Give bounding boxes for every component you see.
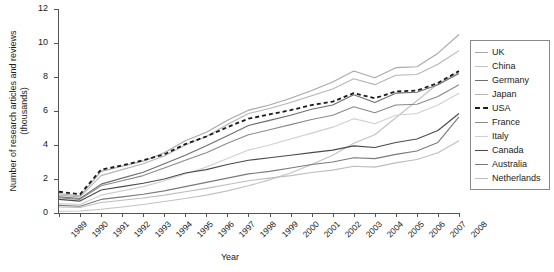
x-tick-label: 1991 <box>111 219 131 239</box>
series-line-canada <box>59 114 459 202</box>
series-line-australia <box>59 117 459 206</box>
legend-item-netherlands[interactable]: Netherlands <box>475 171 546 185</box>
x-tick-label: 2003 <box>363 219 383 239</box>
x-axis-title: Year <box>0 252 460 262</box>
y-tick-label: 2 <box>18 173 48 183</box>
legend-swatch-icon <box>475 107 488 109</box>
legend-swatch-icon <box>475 52 488 53</box>
series-lines <box>59 9 459 213</box>
series-line-italy <box>59 93 459 204</box>
x-tick-label: 2001 <box>321 219 341 239</box>
x-tick <box>59 213 60 217</box>
x-tick-label: 1995 <box>195 219 215 239</box>
x-tick <box>80 213 81 217</box>
legend-label: Italy <box>492 132 509 141</box>
x-tick-label: 2007 <box>447 219 467 239</box>
x-tick <box>417 213 418 217</box>
legend-label: China <box>492 62 516 71</box>
x-tick-label: 2004 <box>384 219 404 239</box>
x-tick <box>270 213 271 217</box>
x-tick <box>227 213 228 217</box>
x-tick-label: 2005 <box>405 219 425 239</box>
y-tick-label: 8 <box>18 71 48 81</box>
legend-swatch-icon <box>475 66 488 67</box>
legend-label: Canada <box>492 146 524 155</box>
legend-label: UK <box>492 48 505 57</box>
x-tick <box>396 213 397 217</box>
legend-item-uk[interactable]: UK <box>475 45 546 59</box>
x-tick-label: 1990 <box>90 219 110 239</box>
legend-label: France <box>492 118 520 127</box>
legend-item-germany[interactable]: Germany <box>475 73 546 87</box>
x-tick <box>438 213 439 217</box>
legend-label: USA <box>492 104 511 113</box>
legend-item-australia[interactable]: Australia <box>475 157 546 171</box>
x-tick-label: 1997 <box>237 219 257 239</box>
legend-swatch-icon <box>475 150 488 151</box>
y-tick-label: 4 <box>18 139 48 149</box>
x-tick-label: 1999 <box>279 219 299 239</box>
x-tick <box>375 213 376 217</box>
legend-label: Japan <box>492 90 517 99</box>
y-tick-label: 10 <box>18 37 48 47</box>
legend-item-canada[interactable]: Canada <box>475 143 546 157</box>
x-tick-label: 2006 <box>426 219 446 239</box>
legend-swatch-icon <box>475 80 488 81</box>
legend-item-italy[interactable]: Italy <box>475 129 546 143</box>
legend-swatch-icon <box>475 94 488 95</box>
x-tick-label: 2002 <box>342 219 362 239</box>
y-tick-label: 6 <box>18 105 48 115</box>
x-tick <box>333 213 334 217</box>
x-tick-label: 1996 <box>216 219 236 239</box>
y-tick-label: 12 <box>18 3 48 13</box>
x-tick <box>312 213 313 217</box>
legend-item-china[interactable]: China <box>475 59 546 73</box>
x-tick <box>185 213 186 217</box>
y-tick-label: 0 <box>18 207 48 217</box>
legend-swatch-icon <box>475 122 488 123</box>
x-tick <box>122 213 123 217</box>
chart-legend: UKChinaGermanyJapanUSAFranceItalyCanadaA… <box>470 40 550 190</box>
x-tick-label: 2000 <box>300 219 320 239</box>
legend-item-france[interactable]: France <box>475 115 546 129</box>
x-tick-label: 1989 <box>69 219 89 239</box>
legend-swatch-icon <box>475 178 488 179</box>
plot-area <box>59 9 459 213</box>
x-axis-line <box>58 213 460 214</box>
x-tick <box>291 213 292 217</box>
x-tick <box>101 213 102 217</box>
x-tick <box>143 213 144 217</box>
legend-swatch-icon <box>475 136 488 137</box>
x-tick-label: 1992 <box>132 219 152 239</box>
x-tick <box>459 213 460 217</box>
legend-label: Germany <box>492 76 529 85</box>
x-tick-label: 1993 <box>153 219 173 239</box>
legend-swatch-icon <box>475 164 488 165</box>
x-tick <box>354 213 355 217</box>
legend-item-japan[interactable]: Japan <box>475 87 546 101</box>
legend-label: Netherlands <box>492 174 541 183</box>
x-tick <box>206 213 207 217</box>
series-line-japan <box>59 51 459 197</box>
x-tick-label: 2008 <box>469 219 489 239</box>
legend-label: Australia <box>492 160 527 169</box>
x-tick-label: 1994 <box>174 219 194 239</box>
x-tick <box>248 213 249 217</box>
chart-figure: Number of research articles and reviews … <box>0 0 554 272</box>
legend-item-usa[interactable]: USA <box>475 101 546 115</box>
x-tick-label: 1998 <box>258 219 278 239</box>
x-tick <box>164 213 165 217</box>
